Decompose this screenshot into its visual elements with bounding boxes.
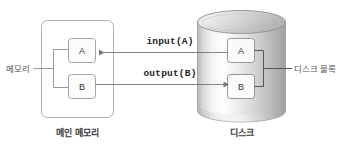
disk-block-a-label: A — [238, 46, 244, 56]
disk-block-b-label: B — [238, 82, 244, 92]
disk-caption: 디스크 — [230, 127, 254, 138]
diagram-canvas: 메모리 A B A B — [0, 0, 339, 147]
disk-cylinder-body — [198, 22, 286, 122]
memory-label: 메모리 — [6, 64, 30, 74]
memory-block-a: A — [69, 39, 96, 63]
memory-block-a-label: A — [79, 46, 85, 56]
disk-block-a: A — [228, 39, 255, 63]
memory-block-b-label: B — [79, 82, 85, 92]
disk-block-label: 디스크 블록 — [294, 64, 336, 74]
memory-leader — [34, 50, 69, 88]
disk-cylinder — [198, 11, 286, 123]
storage-io-diagram: 메모리 A B A B — [0, 0, 339, 147]
main-memory-caption: 메인 메모리 — [56, 127, 99, 138]
arrow-output-b-label: output(B) — [143, 68, 196, 79]
memory-block-b: B — [69, 75, 96, 99]
main-memory-outline — [42, 21, 114, 118]
disk-block-b: B — [228, 75, 255, 99]
arrow-input-a-label: input(A) — [146, 36, 193, 47]
main-memory-container — [42, 21, 114, 118]
